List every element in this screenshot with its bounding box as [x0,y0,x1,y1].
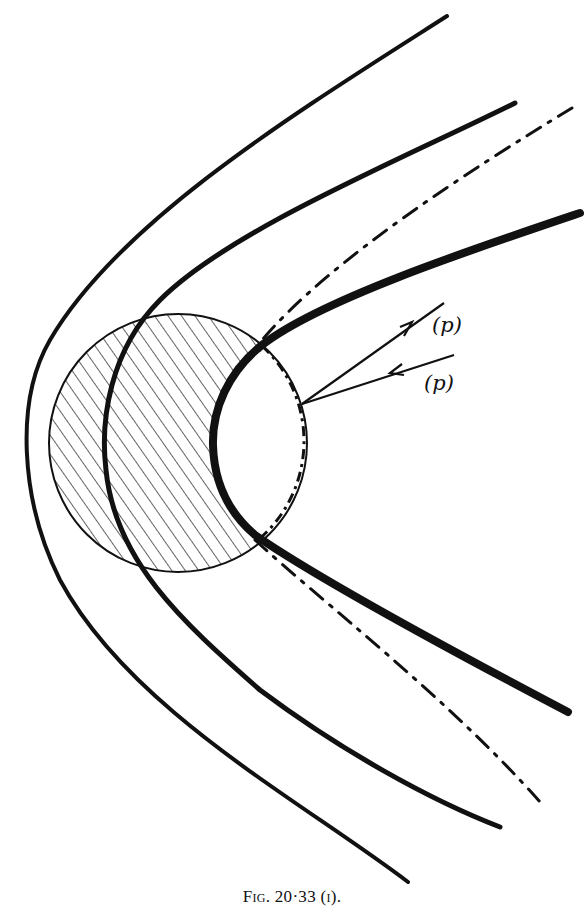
figure-caption: Fig. 20·33 (i). [0,887,584,907]
diagram-canvas: (p) (p) [0,0,584,916]
ray-outgoing [302,303,444,404]
label-incoming-p: (p) [424,371,454,395]
label-outgoing-p: (p) [432,313,462,337]
hatched-sphere [49,314,330,572]
